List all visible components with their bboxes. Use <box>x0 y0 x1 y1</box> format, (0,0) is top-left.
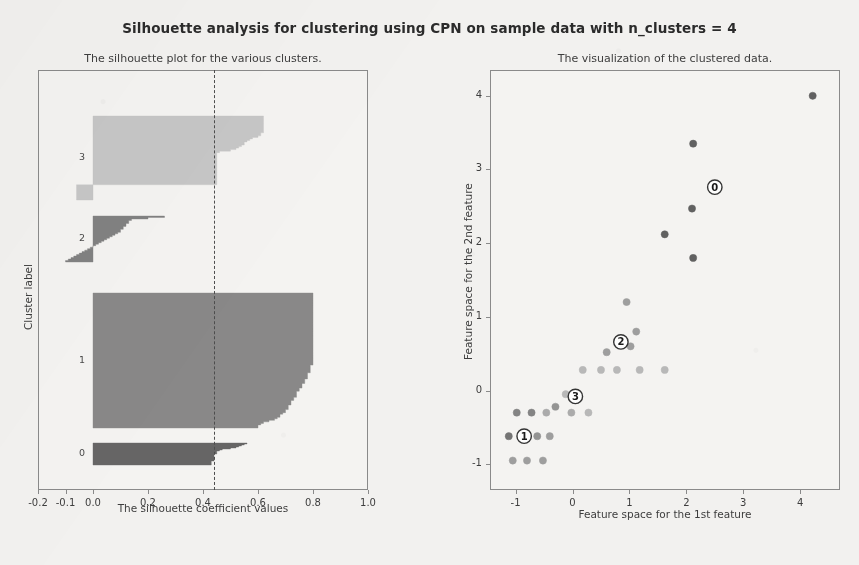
svg-text:2: 2 <box>617 336 624 347</box>
scatter-point <box>513 409 520 416</box>
scatter-point <box>690 140 697 147</box>
cluster-center-2: 2 <box>614 335 628 349</box>
ytick-mark <box>486 243 490 244</box>
svg-text:1: 1 <box>521 431 528 442</box>
scatter-point <box>579 366 586 373</box>
scatter-point <box>623 299 630 306</box>
xtick-label: 0 <box>553 497 593 508</box>
ytick-mark <box>486 464 490 465</box>
svg-text:0: 0 <box>711 182 718 193</box>
scatter-points: 0123 <box>0 0 859 565</box>
scatter-point <box>505 433 512 440</box>
scatter-point <box>585 409 592 416</box>
ytick-mark <box>486 317 490 318</box>
scatter-point <box>688 205 695 212</box>
xtick-label: 3 <box>723 497 763 508</box>
ytick-label: 3 <box>446 162 482 173</box>
scatter-point <box>661 231 668 238</box>
cluster-center-3: 3 <box>568 389 582 403</box>
scatter-xaxis-label: Feature space for the 1st feature <box>490 508 840 520</box>
scatter-point <box>568 409 575 416</box>
ytick-label: 2 <box>446 236 482 247</box>
scatter-point <box>509 457 516 464</box>
scatter-point <box>523 457 530 464</box>
scatter-point <box>534 433 541 440</box>
scatter-point <box>603 349 610 356</box>
scatter-point <box>597 366 604 373</box>
scatter-point <box>539 457 546 464</box>
xtick-label: 1 <box>609 497 649 508</box>
xtick-mark <box>743 490 744 494</box>
xtick-label: 4 <box>780 497 820 508</box>
xtick-mark <box>686 490 687 494</box>
scatter-point <box>661 366 668 373</box>
scatter-point <box>546 433 553 440</box>
svg-text:3: 3 <box>572 391 579 402</box>
scatter-point <box>633 328 640 335</box>
scatter-point <box>552 403 559 410</box>
ytick-mark <box>486 169 490 170</box>
cluster-center-1: 1 <box>517 429 531 443</box>
ytick-label: 0 <box>446 384 482 395</box>
ytick-label: -1 <box>446 457 482 468</box>
xtick-mark <box>516 490 517 494</box>
xtick-mark <box>629 490 630 494</box>
scatter-yaxis-label: Feature space for the 2nd feature <box>462 183 474 360</box>
xtick-label: -1 <box>496 497 536 508</box>
cluster-center-0: 0 <box>708 180 722 194</box>
xtick-mark <box>800 490 801 494</box>
ytick-label: 1 <box>446 310 482 321</box>
ytick-label: 4 <box>446 89 482 100</box>
ytick-mark <box>486 96 490 97</box>
scatter-point <box>809 92 816 99</box>
scatter-point <box>543 409 550 416</box>
xtick-label: 2 <box>666 497 706 508</box>
scatter-point <box>613 366 620 373</box>
scatter-point <box>528 409 535 416</box>
scatter-point <box>636 366 643 373</box>
ytick-mark <box>486 391 490 392</box>
scatter-point <box>690 254 697 261</box>
xtick-mark <box>573 490 574 494</box>
